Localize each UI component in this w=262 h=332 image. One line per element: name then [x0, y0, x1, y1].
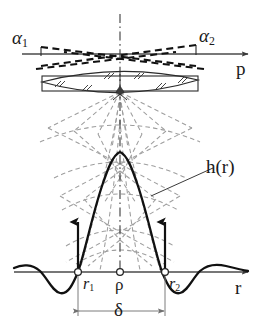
r1-label: r1: [83, 276, 94, 293]
delta-label: δ: [114, 300, 123, 319]
p-axis-label: p: [236, 59, 246, 78]
alpha1-label: α1: [12, 28, 28, 49]
incident-ray-group: [41, 45, 196, 66]
r1-subscript: 1: [89, 282, 94, 293]
alpha1-symbol: α: [12, 27, 22, 48]
marker-r1: [75, 269, 82, 276]
r2-label: r2: [169, 276, 180, 293]
alpha1-subscript: 1: [22, 37, 28, 50]
h-function-label: h(r): [206, 157, 234, 176]
optical-lens-diagram: α1 α2 p h(r) r1 ρ r2 δ r: [0, 0, 262, 332]
r-axis-label: r: [235, 278, 241, 297]
alpha2-label: α2: [199, 26, 215, 47]
flux-arrow-group: [78, 222, 165, 272]
rho-label: ρ: [115, 276, 123, 293]
h-label-leader-line: [151, 168, 213, 196]
alpha2-symbol: α: [199, 25, 209, 46]
alpha2-subscript: 2: [209, 35, 215, 48]
marker-r2: [162, 269, 169, 276]
r2-subscript: 2: [175, 282, 180, 293]
